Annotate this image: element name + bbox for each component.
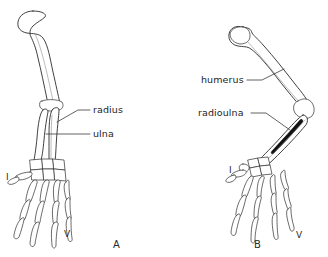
label-radius: radius xyxy=(93,104,123,115)
digit-4-phalanx-2-a xyxy=(51,222,58,248)
digit-3-metacarpal-b xyxy=(257,176,264,198)
panel-letter-b: B xyxy=(254,239,261,250)
carpal-distal-3-a xyxy=(54,169,66,181)
digit-4-phalanx-1-b xyxy=(271,193,277,215)
digit-1-phalanx-b xyxy=(226,175,236,182)
limb-line-art xyxy=(0,0,328,257)
digit-2-metacarpal-a xyxy=(26,180,37,203)
digit-4-phalanx-1-a xyxy=(52,201,59,224)
digit-2-phalanx-2-b xyxy=(231,214,240,236)
carpal-proximal-3-a xyxy=(53,159,65,170)
digit-4-metacarpal-b xyxy=(270,175,276,196)
digit-4-metacarpal-a xyxy=(53,180,60,203)
digit-3-phalanx-1-b xyxy=(254,196,261,219)
leader-line-radioulna-b xyxy=(251,113,290,130)
digit-5-phalanx-1-b xyxy=(284,189,292,210)
digit-2-phalanx-1-a xyxy=(20,200,30,221)
anatomical-figure: radius ulna I V A humerus radioulna I V … xyxy=(0,0,328,257)
label-radioulna: radioulna xyxy=(198,107,244,118)
carpal-proximal-2-b xyxy=(258,157,270,166)
digit-3-metacarpal-a xyxy=(40,180,49,204)
digit-label-five-a: V xyxy=(64,229,70,239)
humerus-bone-a xyxy=(18,11,60,108)
carpal-distal-2-b xyxy=(260,165,272,175)
digit-label-one-a: I xyxy=(6,172,9,182)
digit-label-one-b: I xyxy=(229,165,232,175)
digit-label-five-b: V xyxy=(296,230,302,240)
digit-2-phalanx-2-a xyxy=(14,218,24,239)
carpal-proximal-1-a xyxy=(30,159,43,170)
label-humerus: humerus xyxy=(201,74,244,85)
digit-4-phalanx-2-b xyxy=(272,213,278,240)
digit-2-metacarpal-b xyxy=(242,176,253,198)
digit-5-phalanx-1-a xyxy=(65,198,71,220)
panel-letter-a: A xyxy=(113,239,120,250)
digit-3-phalanx-2-a xyxy=(30,222,39,247)
panel-a-artwork xyxy=(8,11,90,248)
radioulna-groove-b xyxy=(271,119,303,153)
leader-line-radius-a xyxy=(57,110,90,122)
carpal-distal-2-a xyxy=(43,169,55,180)
digit-5-metacarpal-b xyxy=(281,170,289,190)
panel-b-artwork xyxy=(226,26,314,243)
label-ulna: ulna xyxy=(93,128,114,139)
ulna-bone-a xyxy=(49,108,59,164)
digit-1-phalanx-a xyxy=(8,177,19,184)
carpal-distal-1-a xyxy=(31,169,44,180)
carpal-proximal-2-a xyxy=(42,159,54,169)
radius-bone-a xyxy=(34,109,48,163)
digit-2-phalanx-1-b xyxy=(236,195,246,217)
digit-5-phalanx-2-b xyxy=(287,208,295,232)
digit-3-phalanx-1-a xyxy=(35,201,44,225)
